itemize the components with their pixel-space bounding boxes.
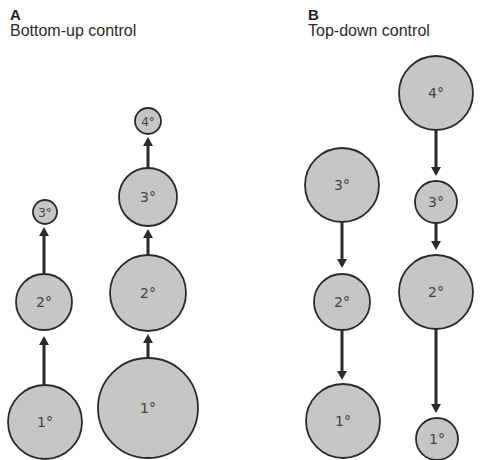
trophic-level-label: 2° xyxy=(334,294,350,310)
trophic-level-label: 1° xyxy=(429,431,445,447)
trophic-level-label: 4° xyxy=(428,85,444,101)
arrow-up-icon xyxy=(143,334,153,343)
panel-a: 1°2°3°1°2°3°4° xyxy=(8,108,198,459)
trophic-level-label: 2° xyxy=(428,284,444,300)
arrow-down-icon xyxy=(431,404,441,413)
arrow-up-icon xyxy=(39,336,49,345)
arrow-up-icon xyxy=(39,227,49,236)
arrow-up-icon xyxy=(143,229,153,238)
trophic-level-label: 1° xyxy=(335,413,351,429)
trophic-level-label: 2° xyxy=(140,285,156,301)
trophic-level-label: 1° xyxy=(37,414,53,430)
panel-b: 3°2°1°4°3°2°1° xyxy=(305,56,473,460)
arrow-down-icon xyxy=(337,371,347,380)
trophic-level-label: 3° xyxy=(140,189,156,205)
trophic-level-label: 3° xyxy=(334,177,350,193)
trophic-control-diagram: 1°2°3°1°2°3°4°3°2°1°4°3°2°1° xyxy=(0,0,482,460)
trophic-level-label: 2° xyxy=(36,294,52,310)
trophic-level-label: 3° xyxy=(428,194,444,210)
arrow-down-icon xyxy=(431,167,441,176)
trophic-level-label: 3° xyxy=(38,206,52,220)
trophic-level-label: 1° xyxy=(140,400,156,416)
trophic-level-label: 4° xyxy=(141,115,155,129)
arrow-down-icon xyxy=(337,259,347,268)
arrow-up-icon xyxy=(143,137,153,146)
arrow-down-icon xyxy=(431,241,441,250)
